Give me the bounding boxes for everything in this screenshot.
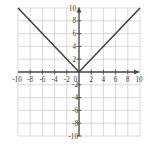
y-tick-label: -8 xyxy=(72,120,78,128)
y-tick-label: 8 xyxy=(72,17,76,25)
x-tick-label: -6 xyxy=(39,76,45,84)
y-tick-label: -4 xyxy=(72,94,78,102)
graph-figure: -10 -8 -6 -4 -2 0 2 4 6 8 10 10 8 6 4 2 … xyxy=(0,0,148,147)
x-tick-label: -2 xyxy=(64,76,70,84)
y-tick-label: 10 xyxy=(69,5,77,13)
y-tick-label: -10 xyxy=(68,133,78,141)
y-tick-label: -2 xyxy=(72,81,78,89)
x-tick-label: 10 xyxy=(135,76,143,84)
y-axis-tick-labels: 10 8 6 4 2 -2 -4 -6 -8 -10 xyxy=(68,5,78,141)
x-tick-label: 8 xyxy=(126,76,130,84)
x-tick-label: -8 xyxy=(27,76,33,84)
x-tick-label: 4 xyxy=(102,76,106,84)
x-axis-arrowhead-icon xyxy=(134,70,140,75)
y-tick-label: 6 xyxy=(72,30,76,38)
y-tick-label: 4 xyxy=(72,43,76,51)
x-tick-label: 2 xyxy=(89,76,93,84)
y-tick-label: 2 xyxy=(72,56,76,64)
x-tick-label: -10 xyxy=(12,76,22,84)
x-tick-label: 6 xyxy=(114,76,118,84)
y-tick-label: -6 xyxy=(72,107,78,115)
y-axis-arrowhead-icon xyxy=(77,7,82,13)
coordinate-plane: -10 -8 -6 -4 -2 0 2 4 6 8 10 10 8 6 4 2 … xyxy=(0,0,148,147)
x-tick-label: -4 xyxy=(52,76,58,84)
